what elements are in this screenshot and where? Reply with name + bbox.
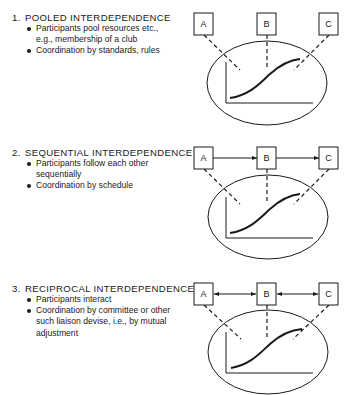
- interdependence-diagrams: A B C A B C A B C: [0, 0, 356, 395]
- box-a-label: A: [200, 153, 206, 163]
- box-b-label: B: [263, 289, 269, 299]
- performance-curve: [230, 59, 300, 98]
- dashed-link-a: [204, 35, 240, 70]
- box-c-label: C: [325, 289, 332, 299]
- box-b-label: B: [263, 19, 269, 29]
- dashed-link-a: [204, 305, 241, 339]
- dashed-link-c: [294, 169, 329, 204]
- diagram-pooled: A B C: [194, 13, 338, 125]
- box-b-label: B: [263, 153, 269, 163]
- box-c-label: C: [325, 153, 332, 163]
- dashed-link-c: [294, 35, 329, 70]
- box-c-label: C: [325, 19, 332, 29]
- performance-curve: [230, 194, 300, 233]
- system-ellipse: [207, 41, 327, 125]
- box-a-label: A: [200, 289, 206, 299]
- dashed-link-a: [204, 169, 240, 204]
- diagram-sequential: A B C: [194, 147, 338, 259]
- dashed-link-c: [293, 305, 329, 339]
- box-a-label: A: [200, 19, 206, 29]
- diagram-reciprocal: A B C: [194, 283, 338, 394]
